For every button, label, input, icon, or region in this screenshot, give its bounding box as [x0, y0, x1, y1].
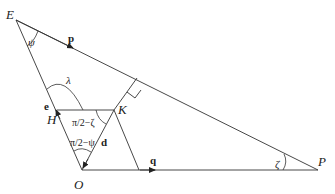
- vector-label-d: d: [101, 136, 107, 148]
- angle-arc-zeta: [283, 154, 286, 170]
- line-K-bottom: [114, 110, 139, 170]
- vector-label-e: e: [44, 100, 49, 112]
- right-angle-marker: [127, 90, 141, 98]
- angle-arc-half-pi-minus-zeta: [96, 110, 106, 124]
- point-label-P: P: [317, 154, 326, 169]
- angle-label-half-pi-minus-zeta: π/2−ζ: [72, 117, 95, 129]
- point-label-E: E: [5, 7, 14, 22]
- vector-d-arrow: [83, 159, 88, 168]
- point-label-H: H: [46, 112, 57, 127]
- angle-label-psi: ψ: [28, 36, 35, 48]
- angle-label-half-pi-minus-psi: π/2−ψ: [70, 137, 95, 148]
- point-label-O: O: [74, 177, 84, 192]
- angle-label-lambda: λ: [65, 74, 71, 86]
- angle-label-zeta: ζ: [275, 158, 281, 171]
- vector-label-p: p: [68, 32, 74, 44]
- angle-arc-lambda: [47, 84, 83, 110]
- vector-label-q: q: [150, 154, 157, 166]
- geometry-diagram: E P O H K p q d e ψ λ ζ π/2−ζ π/2−ψ: [0, 0, 335, 194]
- point-label-K: K: [117, 102, 128, 117]
- angle-arc-half-pi-minus-psi: [74, 149, 91, 152]
- vector-p-arrow: [16, 20, 73, 48]
- vector-e-arrow: [56, 110, 60, 119]
